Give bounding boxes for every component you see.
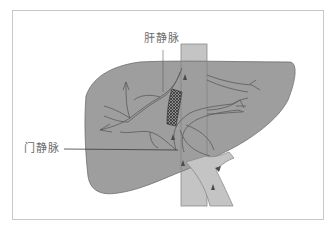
- hepatic-vein-label: 肝静脉: [144, 33, 180, 45]
- portal-vein-label: 门静脉: [24, 143, 60, 155]
